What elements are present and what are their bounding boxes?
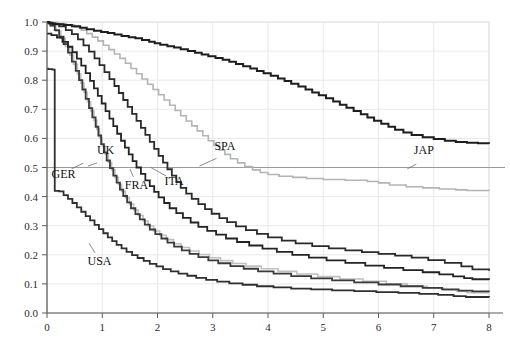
y-tick-label: 0.5 [24, 162, 38, 174]
x-tick-label: 5 [321, 321, 327, 333]
series-annotation-fra: FRA [125, 178, 149, 192]
x-tick-label: 7 [431, 321, 437, 333]
series-annotation-jap: JAP [414, 143, 434, 157]
series-annotation-uk: UK [97, 143, 115, 157]
series-annotation-spa: SPA [214, 139, 235, 153]
y-tick-label: 0.4 [24, 191, 38, 203]
y-tick-label: 0.3 [24, 220, 38, 232]
y-tick-label: 0.9 [24, 45, 38, 57]
y-tick-label: 0.2 [24, 249, 38, 261]
x-tick-label: 6 [376, 321, 382, 333]
x-tick-label: 2 [155, 321, 161, 333]
series-annotation-usa: USA [87, 254, 111, 268]
x-tick-label: 4 [265, 321, 271, 333]
y-tick-label: 0.7 [24, 103, 38, 115]
survival-curve-chart: 0123456780.00.10.20.30.40.50.60.70.80.91… [0, 0, 510, 349]
x-tick-label: 1 [100, 321, 106, 333]
x-tick-label: 3 [210, 321, 216, 333]
chart-container: 0123456780.00.10.20.30.40.50.60.70.80.91… [0, 0, 510, 349]
x-tick-label: 0 [44, 321, 50, 333]
y-tick-label: 0.8 [24, 74, 38, 86]
x-tick-label: 8 [486, 321, 492, 333]
y-tick-label: 0.6 [24, 132, 38, 144]
y-tick-label: 0.0 [24, 307, 38, 319]
y-tick-label: 0.1 [24, 278, 38, 290]
series-annotation-ita: ITA [165, 174, 184, 188]
y-tick-label: 1.0 [24, 16, 38, 28]
